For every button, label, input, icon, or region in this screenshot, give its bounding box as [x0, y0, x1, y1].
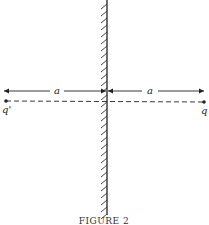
distance-label-right: a [147, 85, 153, 96]
image-charge-diagram: a a q' q FIGURE 2 [0, 0, 209, 225]
distance-label-left: a [54, 85, 60, 96]
image-charge-point [4, 99, 8, 103]
charge-label: q [201, 105, 207, 116]
conducting-plane [101, 0, 107, 219]
figure-caption: FIGURE 2 [79, 216, 130, 225]
dashed-axis [6, 101, 204, 102]
image-charge-label: q' [2, 104, 11, 115]
charge-point [202, 100, 206, 104]
